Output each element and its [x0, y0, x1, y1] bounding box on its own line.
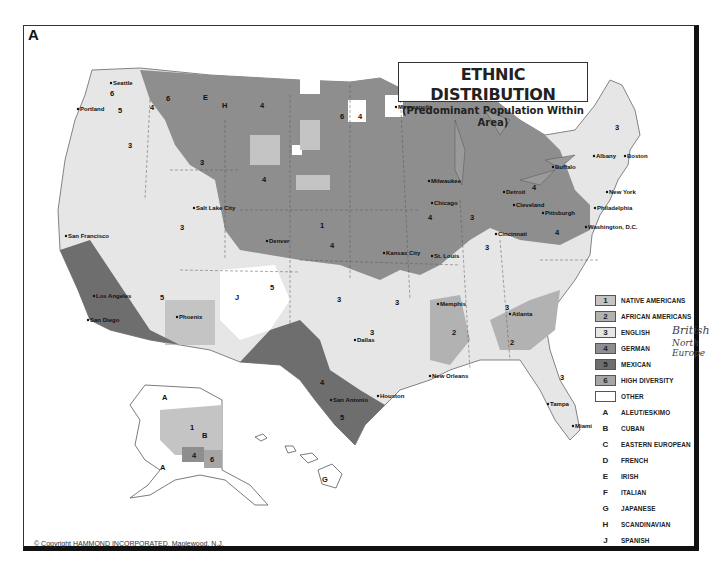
- city-marker: [431, 202, 433, 204]
- svg-text:3: 3: [395, 298, 399, 307]
- handwritten-note-north-europe: North Europe: [672, 338, 724, 358]
- copyright-notice: © Copyright HAMMOND INCORPORATED, Maplew…: [34, 540, 224, 547]
- legend-code: F: [595, 488, 616, 497]
- city-label: Washington, D.C.: [588, 224, 638, 230]
- legend-label: CUBAN: [621, 424, 644, 433]
- city-marker: [431, 255, 433, 257]
- legend-label: FRENCH: [621, 456, 648, 465]
- svg-text:3: 3: [370, 328, 374, 337]
- city-label: San Francisco: [68, 233, 109, 239]
- legend-code: C: [595, 440, 616, 449]
- city-marker: [330, 399, 332, 401]
- legend-code: G: [595, 504, 616, 513]
- legend-item-italian: FITALIAN: [595, 485, 705, 500]
- city-marker: [65, 235, 67, 237]
- city-label: Los Angeles: [96, 293, 132, 299]
- hawaii-islands: [255, 434, 342, 488]
- city-marker: [93, 295, 95, 297]
- legend-item-mexican: 5 MEXICAN: [595, 357, 705, 372]
- city-label: New York: [609, 189, 636, 195]
- legend-code: B: [595, 424, 616, 433]
- legend-code: E: [595, 472, 616, 481]
- city-label: Detroit: [506, 189, 525, 195]
- svg-text:2: 2: [452, 328, 456, 337]
- city-label: Houston: [380, 393, 405, 399]
- legend-label: IRISH: [621, 472, 638, 481]
- region-native-americans: [300, 120, 320, 150]
- legend-code: H: [595, 520, 616, 529]
- svg-text:1: 1: [190, 423, 194, 432]
- svg-text:B: B: [202, 431, 208, 440]
- legend-swatch: 3: [595, 327, 616, 338]
- city-label: Atlanta: [512, 311, 533, 317]
- svg-text:H: H: [222, 101, 227, 110]
- legend-swatch: 4: [595, 343, 616, 354]
- svg-text:6: 6: [210, 455, 214, 464]
- legend-label: OTHER: [621, 392, 644, 401]
- legend-item-french: DFRENCH: [595, 453, 705, 468]
- region-scandinavian: [300, 78, 320, 94]
- city-label: Philadelphia: [597, 205, 633, 211]
- legend-code: D: [595, 456, 616, 465]
- svg-text:3: 3: [470, 213, 474, 222]
- svg-text:J: J: [235, 293, 239, 302]
- legend-label: GERMAN: [621, 344, 650, 353]
- svg-text:6: 6: [340, 112, 344, 121]
- city-marker: [87, 319, 89, 321]
- svg-text:5: 5: [340, 413, 344, 422]
- legend-label: HIGH DIVERSITY: [621, 376, 674, 385]
- legend-item-cuban: BCUBAN: [595, 421, 705, 436]
- legend-item-irish: EIRISH: [595, 469, 705, 484]
- city-marker: [383, 252, 385, 254]
- svg-text:1: 1: [320, 221, 324, 230]
- city-marker: [593, 155, 595, 157]
- legend-label: MEXICAN: [621, 360, 651, 369]
- city-label: Cincinnati: [498, 231, 527, 237]
- legend-item-african-americans: 2 AFRICAN AMERICANS: [595, 309, 705, 324]
- legend-label: EASTERN EUROPEAN: [621, 440, 691, 449]
- svg-text:5: 5: [160, 293, 164, 302]
- city-label: Buffalo: [555, 164, 576, 170]
- city-marker: [377, 395, 379, 397]
- legend-label: AFRICAN AMERICANS: [621, 312, 691, 321]
- svg-text:3: 3: [560, 373, 564, 382]
- city-label: Phoenix: [179, 314, 203, 320]
- svg-text:3: 3: [200, 158, 204, 167]
- city-label: Miami: [575, 423, 592, 429]
- svg-text:6: 6: [110, 89, 114, 98]
- city-marker: [193, 207, 195, 209]
- legend-swatch: 2: [595, 311, 616, 322]
- city-marker: [110, 82, 112, 84]
- legend-label: SCANDINAVIAN: [621, 520, 670, 529]
- svg-text:3: 3: [615, 123, 619, 132]
- city-label: San Diego: [90, 317, 120, 323]
- legend-label: ALEUT/ESKIMO: [621, 408, 670, 417]
- svg-text:3: 3: [337, 295, 341, 304]
- city-label: Denver: [269, 238, 290, 244]
- region-native-americans: [250, 135, 280, 165]
- city-label: Cleveland: [516, 202, 545, 208]
- legend-item-spanish: JSPANISH: [595, 533, 705, 548]
- city-marker: [354, 339, 356, 341]
- city-label: Kansas City: [386, 250, 421, 256]
- map-title: ETHNIC DISTRIBUTION: [399, 65, 587, 105]
- svg-text:6: 6: [166, 94, 170, 103]
- svg-text:A: A: [162, 393, 168, 402]
- legend-item-scandinavian: HSCANDINAVIAN: [595, 517, 705, 532]
- city-marker: [594, 207, 596, 209]
- city-marker: [542, 212, 544, 214]
- city-marker: [77, 108, 79, 110]
- city-marker: [547, 403, 549, 405]
- legend-swatch: 1: [595, 295, 616, 306]
- city-label: San Antonio: [333, 397, 368, 403]
- city-label: Dallas: [357, 337, 375, 343]
- region-native-americans: [165, 300, 215, 345]
- svg-text:3: 3: [128, 141, 132, 150]
- region-scandinavian: [348, 100, 366, 122]
- city-marker: [266, 240, 268, 242]
- legend-swatch: 5: [595, 359, 616, 370]
- city-marker: [509, 313, 511, 315]
- legend-item-native-americans: 1 NATIVE AMERICANS: [595, 293, 705, 308]
- city-marker: [495, 233, 497, 235]
- city-marker: [552, 166, 554, 168]
